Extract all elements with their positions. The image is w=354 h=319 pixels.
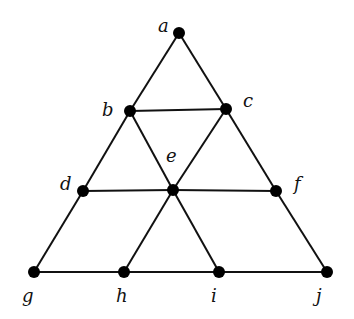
node-c <box>220 103 232 115</box>
node-b <box>124 105 136 117</box>
node-e <box>167 184 179 196</box>
node-j <box>321 266 333 278</box>
edge-d-g <box>34 191 83 272</box>
node-label-j: j <box>312 285 322 306</box>
edge-c-f <box>226 109 276 191</box>
edge-e-i <box>173 190 219 272</box>
node-label-b: b <box>102 99 114 120</box>
edge-f-j <box>276 191 327 272</box>
node-label-e: e <box>166 145 177 166</box>
edge-b-c <box>130 109 226 111</box>
node-label-a: a <box>158 15 169 36</box>
node-a <box>173 27 185 39</box>
node-f <box>270 185 282 197</box>
node-label-g: g <box>22 285 34 306</box>
node-d <box>77 185 89 197</box>
graph-diagram: abcdefghij <box>0 0 354 319</box>
node-h <box>118 266 130 278</box>
edge-e-f <box>173 190 276 191</box>
edge-a-b <box>130 33 179 111</box>
edge-a-c <box>179 33 226 109</box>
edge-b-d <box>83 111 130 191</box>
edge-c-e <box>173 109 226 190</box>
node-label-d: d <box>60 173 72 194</box>
node-label-i: i <box>211 285 217 306</box>
edges <box>34 33 327 272</box>
node-label-f: f <box>292 173 304 194</box>
node-g <box>28 266 40 278</box>
node-i <box>213 266 225 278</box>
edge-d-e <box>83 190 173 191</box>
node-label-h: h <box>116 285 128 306</box>
nodes <box>28 27 333 278</box>
node-label-c: c <box>243 90 253 111</box>
labels: abcdefghij <box>22 15 322 306</box>
edge-e-h <box>124 190 173 272</box>
